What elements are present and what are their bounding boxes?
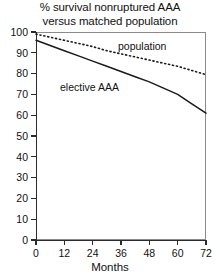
series-label-population: population bbox=[118, 41, 166, 52]
survival-chart-figure: % survival nonruptured AAA versus matche… bbox=[0, 0, 220, 280]
series-label-elective-aaa: elective AAA bbox=[60, 82, 119, 93]
x-axis-title: Months bbox=[0, 261, 220, 274]
series-canvas bbox=[0, 0, 220, 280]
